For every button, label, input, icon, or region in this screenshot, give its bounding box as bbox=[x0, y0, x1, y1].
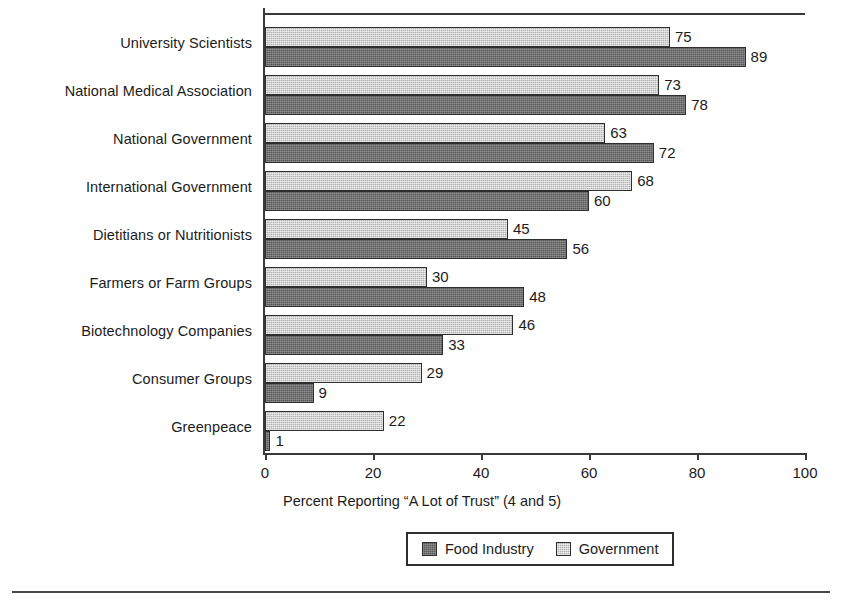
bar-gov bbox=[265, 411, 384, 431]
bar-gov bbox=[265, 171, 632, 191]
bar-food bbox=[265, 47, 746, 67]
bar-gov bbox=[265, 267, 427, 287]
category-label: National Medical Association bbox=[0, 83, 252, 99]
x-axis-tick-label: 40 bbox=[456, 464, 506, 481]
x-axis-tick bbox=[265, 453, 267, 460]
bar-value-label: 22 bbox=[389, 411, 406, 431]
bar-value-label: 30 bbox=[432, 267, 449, 287]
x-axis-tick-label: 80 bbox=[672, 464, 722, 481]
x-axis-title: Percent Reporting “A Lot of Trust” (4 an… bbox=[0, 493, 844, 509]
category-label: Consumer Groups bbox=[0, 371, 252, 387]
bar-food bbox=[265, 287, 524, 307]
bar-value-label: 89 bbox=[751, 47, 768, 67]
bar-value-label: 48 bbox=[529, 287, 546, 307]
plot-area: 0 20 40 60 80 100 7589737863726860455630… bbox=[265, 13, 805, 455]
legend-label-food-industry: Food Industry bbox=[445, 541, 534, 557]
bar-food bbox=[265, 95, 686, 115]
bar-gov bbox=[265, 123, 605, 143]
x-axis-tick-label: 100 bbox=[780, 464, 830, 481]
bar-value-label: 33 bbox=[448, 335, 465, 355]
x-axis-tick-label: 20 bbox=[348, 464, 398, 481]
bar-food bbox=[265, 143, 654, 163]
bar-value-label: 68 bbox=[637, 171, 654, 191]
category-label: Greenpeace bbox=[0, 419, 252, 435]
bar-value-label: 60 bbox=[594, 191, 611, 211]
legend-swatch-food-industry bbox=[422, 542, 437, 556]
bar-value-label: 73 bbox=[664, 75, 681, 95]
category-label: Dietitians or Nutritionists bbox=[0, 227, 252, 243]
bar-gov bbox=[265, 75, 659, 95]
bar-value-label: 63 bbox=[610, 123, 627, 143]
bar-gov bbox=[265, 363, 422, 383]
bar-value-label: 46 bbox=[518, 315, 535, 335]
x-axis-tick-label: 60 bbox=[564, 464, 614, 481]
bar-food bbox=[265, 191, 589, 211]
bar-food bbox=[265, 431, 270, 451]
bar-value-label: 72 bbox=[659, 143, 676, 163]
x-axis-tick bbox=[805, 453, 807, 460]
legend-item-food-industry[interactable]: Food Industry bbox=[422, 541, 534, 557]
x-axis-tick bbox=[697, 453, 699, 460]
x-axis-tick bbox=[589, 453, 591, 460]
legend-swatch-government bbox=[556, 542, 571, 556]
bar-gov bbox=[265, 219, 508, 239]
legend-item-government[interactable]: Government bbox=[556, 541, 659, 557]
x-axis-tick bbox=[481, 453, 483, 460]
bar-value-label: 45 bbox=[513, 219, 530, 239]
bar-food bbox=[265, 239, 567, 259]
plot-top-border bbox=[265, 13, 805, 15]
chart-figure: University Scientists National Medical A… bbox=[0, 0, 844, 605]
chart-legend: Food Industry Government bbox=[406, 532, 674, 566]
category-label: National Government bbox=[0, 131, 252, 147]
legend-label-government: Government bbox=[579, 541, 659, 557]
bar-value-label: 75 bbox=[675, 27, 692, 47]
category-label: Biotechnology Companies bbox=[0, 323, 252, 339]
bar-value-label: 1 bbox=[275, 431, 283, 451]
bar-gov bbox=[265, 27, 670, 47]
category-label: University Scientists bbox=[0, 35, 252, 51]
footer-divider bbox=[12, 591, 830, 593]
bar-value-label: 9 bbox=[319, 383, 327, 403]
bar-gov bbox=[265, 315, 513, 335]
bar-food bbox=[265, 335, 443, 355]
bar-value-label: 29 bbox=[427, 363, 444, 383]
category-label: Farmers or Farm Groups bbox=[0, 275, 252, 291]
bar-value-label: 56 bbox=[572, 239, 589, 259]
bar-food bbox=[265, 383, 314, 403]
x-axis-tick-label: 0 bbox=[240, 464, 290, 481]
x-axis-tick bbox=[373, 453, 375, 460]
bar-value-label: 78 bbox=[691, 95, 708, 115]
x-axis-line bbox=[263, 453, 806, 455]
category-label: International Government bbox=[0, 179, 252, 195]
